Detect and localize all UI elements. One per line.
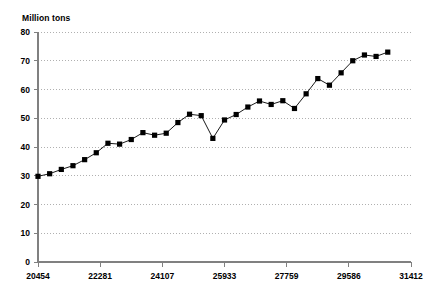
x-axis-tick-label: 20454: [16, 271, 60, 281]
data-series-line: [38, 52, 388, 176]
data-point-marker: [47, 171, 52, 176]
data-point-marker: [175, 120, 180, 125]
y-axis-tick-label: 70: [4, 56, 30, 66]
data-point-marker: [82, 157, 87, 162]
data-point-marker: [187, 112, 192, 117]
y-axis-tick-label: 60: [4, 85, 30, 95]
data-point-marker: [152, 133, 157, 138]
data-point-marker: [385, 50, 390, 55]
data-point-marker: [292, 106, 297, 111]
y-axis-tick-label: 0: [4, 257, 30, 267]
data-point-marker: [210, 136, 215, 141]
y-axis-tick-label: 30: [4, 171, 30, 181]
y-axis-tick-label: 20: [4, 200, 30, 210]
data-point-marker: [105, 141, 110, 146]
x-axis-tick-label: 24107: [140, 271, 184, 281]
data-point-marker: [280, 98, 285, 103]
x-axis-tick-label: 31412: [389, 271, 433, 281]
chart-plot-area: [0, 0, 433, 289]
data-point-marker: [70, 163, 75, 168]
y-axis-tick-label: 10: [4, 228, 30, 238]
data-point-marker: [234, 112, 239, 117]
data-point-marker: [269, 102, 274, 107]
data-point-marker: [257, 98, 262, 103]
data-point-marker: [164, 131, 169, 136]
data-point-marker: [129, 137, 134, 142]
data-point-marker: [199, 113, 204, 118]
data-point-marker: [362, 52, 367, 57]
y-axis-tick-label: 40: [4, 142, 30, 152]
y-axis-tick-label: 50: [4, 113, 30, 123]
data-point-marker: [350, 58, 355, 63]
data-point-marker: [117, 142, 122, 147]
data-point-marker: [59, 167, 64, 172]
data-point-marker: [35, 174, 40, 179]
data-point-marker: [327, 83, 332, 88]
data-point-marker: [315, 76, 320, 81]
chart-container: Million tons 010203040506070802045422281…: [0, 0, 433, 289]
data-point-marker: [339, 70, 344, 75]
y-axis-tick-label: 80: [4, 27, 30, 37]
data-point-marker: [222, 117, 227, 122]
data-point-marker: [140, 130, 145, 135]
x-axis-tick-label: 22281: [78, 271, 122, 281]
data-point-marker: [373, 54, 378, 59]
data-point-marker: [94, 150, 99, 155]
x-axis-tick-label: 29586: [327, 271, 371, 281]
data-point-marker: [245, 104, 250, 109]
x-axis-tick-label: 27759: [265, 271, 309, 281]
data-point-marker: [304, 91, 309, 96]
x-axis-tick-label: 25933: [203, 271, 247, 281]
